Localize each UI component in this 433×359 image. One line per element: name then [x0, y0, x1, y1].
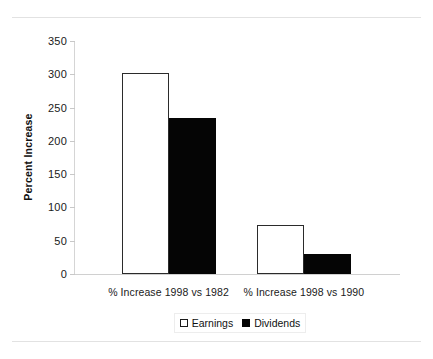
x-category-label-2: % Increase 1998 vs 1990 [243, 286, 364, 298]
y-tick-label: 200 [48, 135, 67, 147]
bar-dividends-group-1 [169, 118, 216, 274]
y-tick-label: 150 [48, 168, 67, 180]
y-tick-label: 100 [48, 201, 67, 213]
bar-earnings-group-2 [257, 225, 304, 274]
y-tick-mark [70, 41, 75, 42]
legend-label-dividends: Dividends [254, 317, 300, 329]
bar-chart-figure: Percent Increase 050100150200250300350 %… [0, 0, 433, 359]
y-tick-label: 350 [48, 35, 67, 47]
y-tick-mark [70, 74, 75, 75]
bottom-divider-rule [12, 341, 421, 342]
y-tick-label: 0 [61, 268, 67, 280]
y-tick-label: 250 [48, 102, 67, 114]
legend-swatch-earnings-icon [180, 319, 188, 327]
legend-label-earnings: Earnings [192, 317, 233, 329]
y-tick-mark [70, 207, 75, 208]
y-tick-label: 50 [54, 235, 67, 247]
legend-swatch-dividends-icon [242, 319, 250, 327]
y-axis-line [74, 41, 75, 274]
y-tick-mark [70, 241, 75, 242]
x-category-label-1: % Increase 1998 vs 1982 [108, 286, 229, 298]
legend-item-earnings: Earnings [180, 317, 233, 329]
y-tick-label: 300 [48, 68, 67, 80]
top-divider-rule [12, 17, 421, 18]
y-tick-mark [70, 141, 75, 142]
y-tick-mark [70, 274, 75, 275]
bar-earnings-group-1 [122, 73, 169, 274]
y-axis-title: Percent Increase [22, 113, 34, 200]
y-tick-mark [70, 174, 75, 175]
plot-area: 050100150200250300350 % Increase 1998 vs… [74, 41, 400, 274]
y-tick-mark [70, 108, 75, 109]
bar-dividends-group-2 [304, 254, 351, 274]
chart-legend: Earnings Dividends [174, 313, 306, 333]
x-axis-line [74, 274, 400, 275]
legend-item-dividends: Dividends [242, 317, 300, 329]
